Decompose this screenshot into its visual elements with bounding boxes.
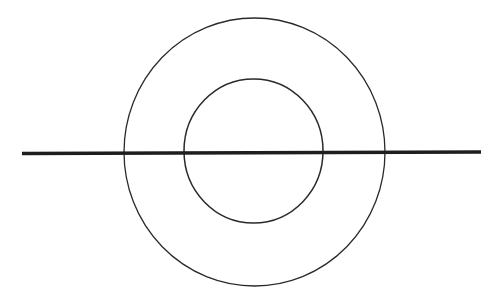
- horizontal-line: [22, 152, 481, 154]
- concentric-circles-diagram: [0, 0, 501, 303]
